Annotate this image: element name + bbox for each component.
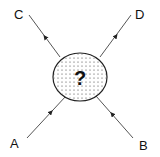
line-d bbox=[100, 15, 131, 57]
label-b: B bbox=[139, 138, 148, 153]
line-a bbox=[27, 96, 66, 138]
label-a: A bbox=[10, 136, 19, 151]
unknown-label: ? bbox=[74, 67, 86, 89]
line-b bbox=[96, 96, 133, 138]
line-c bbox=[29, 15, 60, 57]
label-c: C bbox=[14, 7, 23, 22]
label-d: D bbox=[135, 7, 144, 22]
interaction-region: ? bbox=[53, 53, 107, 101]
scattering-diagram: ? C D A B bbox=[0, 0, 160, 157]
